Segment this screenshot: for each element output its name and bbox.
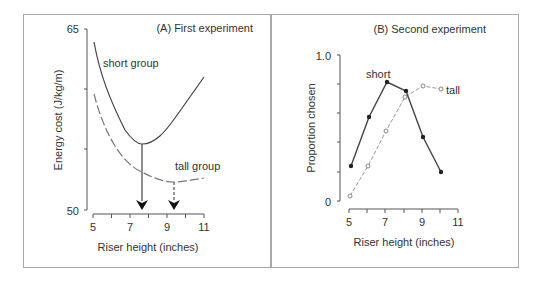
arrowhead-icon bbox=[136, 200, 148, 210]
y-tick-bottom: 0 bbox=[325, 196, 331, 208]
panel-a-chart: (A) First experiment 65 50 Energy cost (… bbox=[52, 22, 253, 253]
label-short-group: short group bbox=[103, 57, 159, 69]
charts-svg: (A) First experiment 65 50 Energy cost (… bbox=[0, 0, 535, 284]
x-tick: 7 bbox=[127, 221, 133, 233]
arrowhead-icon bbox=[168, 200, 180, 210]
label-tall: tall bbox=[446, 84, 460, 96]
x-tick: 11 bbox=[198, 221, 209, 233]
x-tick: 7 bbox=[382, 216, 388, 228]
y-axis-label: Proportion chosen bbox=[305, 83, 317, 172]
y-axis-label: Energy cost (J/kg/m) bbox=[52, 70, 64, 171]
short-series-line bbox=[351, 82, 441, 172]
panel-a-title: (A) First experiment bbox=[156, 22, 253, 34]
y-tick-top: 65 bbox=[67, 23, 79, 35]
x-axis-label: Riser height (inches) bbox=[354, 236, 455, 248]
panel-b-title: (B) Second experiment bbox=[374, 23, 487, 35]
x-tick: 5 bbox=[90, 221, 96, 233]
x-tick: 5 bbox=[346, 216, 352, 228]
label-tall-group: tall group bbox=[175, 160, 220, 172]
y-tick-bottom: 50 bbox=[67, 205, 79, 217]
short-series-markers bbox=[349, 80, 443, 174]
panel-b-chart: (B) Second experiment 1.0 0 Proportion c… bbox=[305, 23, 486, 248]
tall-series-line bbox=[350, 86, 441, 196]
tall-series-markers bbox=[348, 84, 443, 198]
x-tick: 11 bbox=[452, 216, 463, 228]
x-axis-label: Riser height (inches) bbox=[98, 241, 199, 253]
label-short: short bbox=[366, 68, 390, 80]
y-tick-top: 1.0 bbox=[316, 50, 331, 62]
x-tick: 9 bbox=[419, 216, 425, 228]
x-tick: 9 bbox=[164, 221, 170, 233]
